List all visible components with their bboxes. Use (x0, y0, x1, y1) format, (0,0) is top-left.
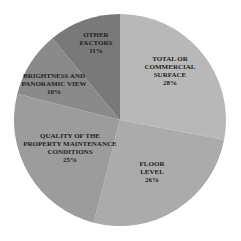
pie-chart: TOTAL ORCOMMERCIALSURFACE28%FLOORLEVEL26… (0, 0, 241, 241)
